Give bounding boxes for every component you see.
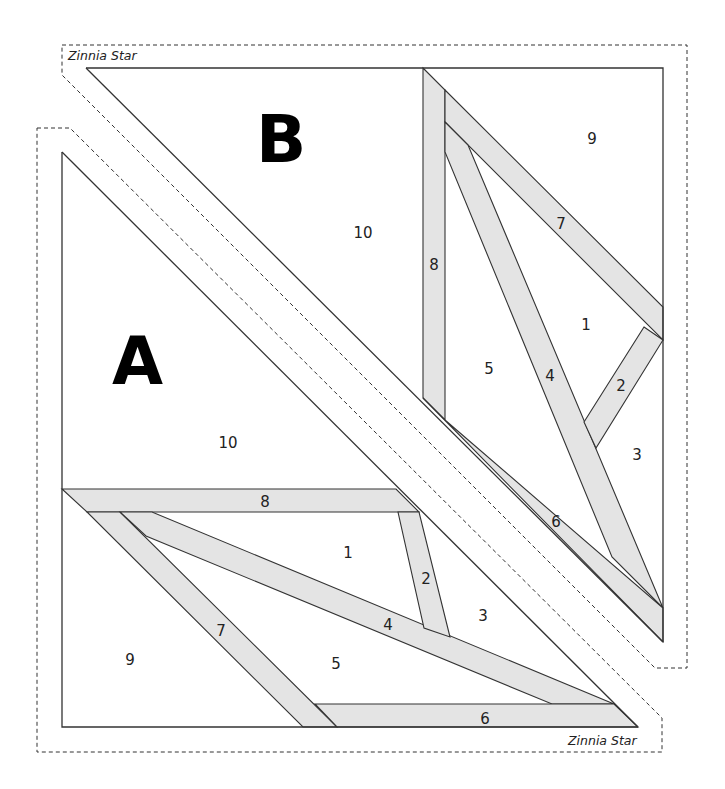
block-a-piece-6: 6 bbox=[480, 710, 490, 728]
block-a-letter: A bbox=[112, 323, 163, 400]
block-a-piece-10: 10 bbox=[218, 434, 237, 452]
block-a-piece-2: 2 bbox=[421, 570, 431, 588]
block-b-piece-1: 1 bbox=[581, 316, 591, 334]
block-b-piece-7: 7 bbox=[556, 215, 566, 233]
block-b-piece-4: 4 bbox=[545, 367, 555, 385]
block-a-piece-8-strip bbox=[62, 489, 419, 512]
block-b-piece-8: 8 bbox=[429, 256, 439, 274]
block-b-letter: B bbox=[256, 101, 306, 178]
block-b-piece-2: 2 bbox=[616, 377, 626, 395]
block-b-piece-6: 6 bbox=[551, 513, 561, 531]
block-a-title: Zinnia Star bbox=[567, 733, 637, 748]
block-b-piece-3: 3 bbox=[632, 446, 642, 464]
block-a-piece-5: 5 bbox=[331, 655, 341, 673]
block-b-piece-8-strip bbox=[423, 68, 445, 420]
block-b-piece-10: 10 bbox=[353, 224, 372, 242]
block-b-hypotenuse bbox=[86, 68, 663, 642]
block-b-piece-5: 5 bbox=[484, 360, 494, 378]
block-a-hypotenuse bbox=[62, 152, 638, 727]
block-b-piece-9: 9 bbox=[587, 130, 597, 148]
block-a-piece-1: 1 bbox=[343, 544, 353, 562]
block-a-piece-6-strip bbox=[315, 704, 638, 727]
block-a-piece-8: 8 bbox=[260, 493, 270, 511]
block-a-piece-4: 4 bbox=[383, 616, 393, 634]
block-b-title: Zinnia Star bbox=[67, 48, 137, 63]
block-a-piece-7: 7 bbox=[216, 622, 226, 640]
block-a-piece-9: 9 bbox=[125, 651, 135, 669]
block-a-piece-3: 3 bbox=[478, 607, 488, 625]
foundation-pattern-diagram: Zinnia Star B 1 2 3 4 5 6 7 8 9 10 Zinni… bbox=[0, 0, 725, 789]
